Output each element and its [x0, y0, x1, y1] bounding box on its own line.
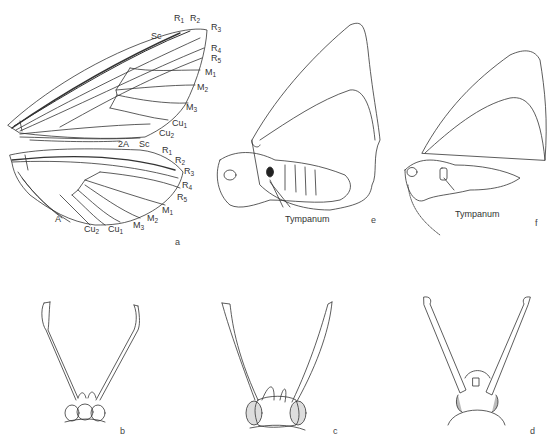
panel-label-d: d: [530, 426, 535, 436]
hindwing-vein-r3-label: R3: [184, 167, 194, 178]
hindwing-vein-m2-label: M2: [147, 214, 158, 225]
forewing-vein-r1-label: R1: [174, 14, 184, 25]
panel-label-a: a: [175, 237, 180, 247]
hindwing-vein-r1-label: R1: [162, 146, 172, 157]
moth-lateral-f: [405, 51, 546, 235]
tympanum-label-e: Tympanum: [285, 214, 330, 224]
tympanum-label-f: Tympanum: [455, 209, 500, 219]
head-antennae-d: [424, 297, 530, 425]
moth-lateral-e: [217, 23, 380, 210]
head-antennae-b: [42, 302, 140, 422]
panel-label-b: b: [120, 426, 125, 436]
forewing-vein-r3-label: R3: [211, 23, 221, 34]
hindwing-vein-sc-label: Sc: [139, 140, 150, 149]
forewing-vein-m3-label: M3: [186, 103, 197, 114]
forewing-vein-r2-label: R2: [190, 14, 200, 25]
forewing-vein-cu2-label: Cu2: [159, 129, 174, 140]
forewing-vein-cu1-label: Cu1: [172, 119, 187, 130]
figure-illustration: [0, 0, 550, 441]
hindwing-vein-cu1-label: Cu1: [108, 225, 123, 236]
hindwing-vein-r2-label: R2: [175, 156, 185, 167]
forewing-vein-sc-label: Sc: [151, 32, 162, 41]
forewing-vein-r5-label: R5: [211, 54, 221, 65]
hindwing-vein-m1-label: M1: [162, 206, 173, 217]
panel-label-f: f: [535, 218, 538, 228]
hindwing-vein-m3-label: M3: [133, 221, 144, 232]
head-antennae-c: [222, 302, 332, 430]
hindwing-vein-r4-label: R4: [182, 181, 192, 192]
hindwing-vein-a-label: A: [55, 215, 61, 224]
forewing-vein-m1-label: M1: [205, 68, 216, 79]
hindwing-vein-cu2-label: Cu2: [84, 225, 99, 236]
panel-label-c: c: [333, 426, 338, 436]
panel-label-e: e: [371, 215, 376, 225]
forewing-vein-m2-label: M2: [197, 83, 208, 94]
hindwing-vein-r5-label: R5: [177, 193, 187, 204]
forewing-vein-2a-label: 2A: [118, 140, 129, 149]
